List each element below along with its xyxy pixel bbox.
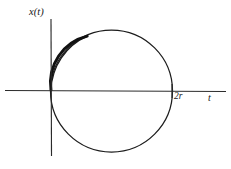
lens-inner-arc bbox=[50, 36, 87, 90]
x-axis-line bbox=[51, 19, 52, 156]
math-figure bbox=[0, 0, 231, 169]
figure-container: x(t) t 2r bbox=[0, 0, 231, 169]
t-axis-line bbox=[5, 91, 226, 92]
